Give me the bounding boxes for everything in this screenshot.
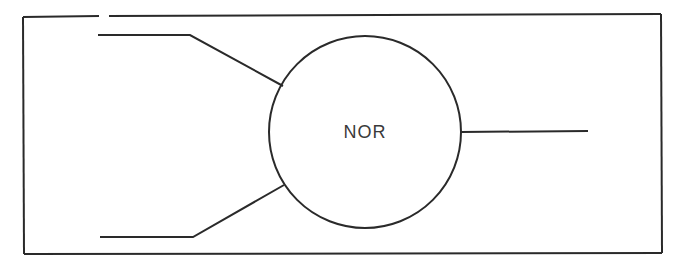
gate-label: NOR xyxy=(344,122,387,142)
nor-gate-diagram: NOR xyxy=(0,0,685,267)
frame xyxy=(23,14,662,254)
input-wire-2 xyxy=(100,185,284,237)
frame-bottom-edge xyxy=(24,253,662,254)
frame-right-edge xyxy=(661,14,662,253)
frame-left-edge xyxy=(23,17,24,254)
output-wire xyxy=(461,131,588,132)
input-wire-1 xyxy=(98,35,283,86)
frame-top-right-segment xyxy=(109,14,661,16)
frame-top-left-segment xyxy=(23,16,99,17)
